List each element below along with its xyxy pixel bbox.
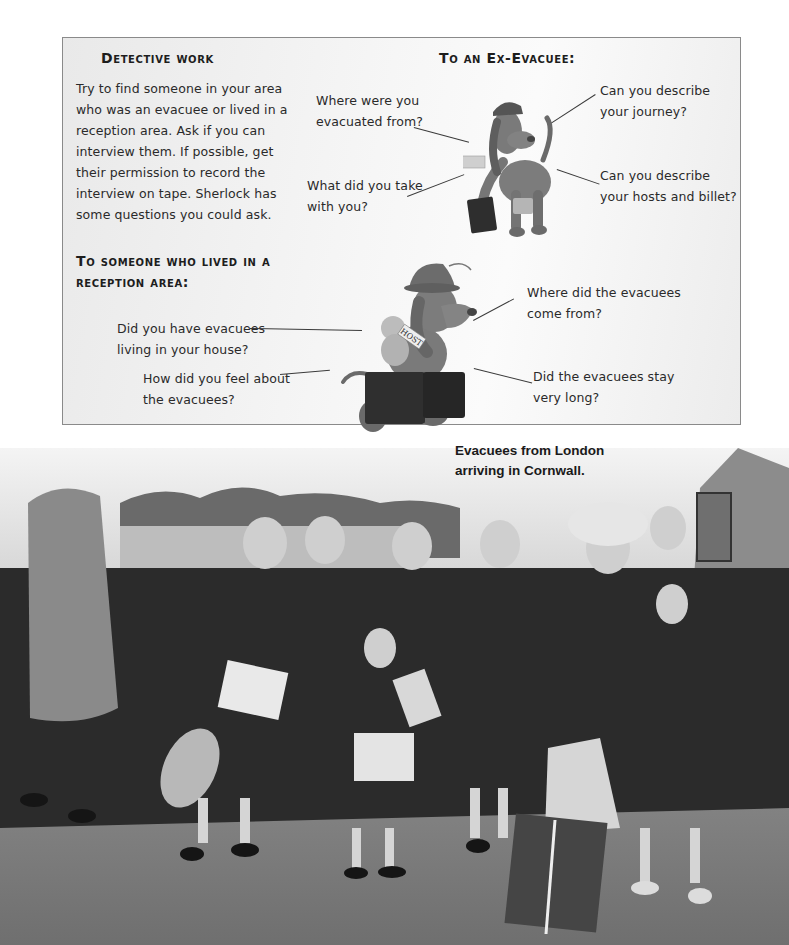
question-evacuees-in-house: Did you have evacuees living in your hou… — [117, 318, 267, 360]
question-what-did-you-take: What did you take with you? — [307, 175, 437, 217]
leader-line — [557, 169, 600, 185]
host-dog-illustration: HOST — [331, 244, 481, 444]
detective-work-title: Detective work — [101, 50, 214, 66]
detective-work-body: Try to find someone in your area who was… — [76, 78, 296, 225]
question-describe-hosts: Can you describe your hosts and billet? — [600, 165, 740, 207]
evacuees-photograph — [0, 448, 789, 945]
activity-box: Detective work Try to find someone in yo… — [62, 37, 741, 425]
ex-evacuee-title: To an Ex-Evacuee: — [439, 50, 575, 66]
leader-line — [474, 368, 532, 383]
question-feel-about-evacuees: How did you feel about the evacuees? — [143, 368, 303, 410]
question-evacuees-stay-long: Did the evacuees stay very long? — [533, 366, 683, 408]
question-evacuated-from: Where were you evacuated from? — [316, 90, 446, 132]
evacuee-dog-illustration — [463, 90, 563, 240]
question-where-evacuees-from: Where did the evacuees come from? — [527, 282, 687, 324]
reception-area-title: To someone who lived in a reception area… — [76, 251, 276, 293]
photo-caption: Evacuees from London arriving in Cornwal… — [455, 441, 625, 481]
question-describe-journey: Can you describe your journey? — [600, 80, 740, 122]
